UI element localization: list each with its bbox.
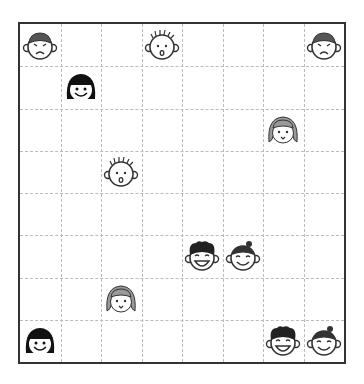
black-hair-girl-icon[interactable]	[61, 66, 102, 108]
angry-boy-icon[interactable]	[20, 24, 61, 66]
grid-line-horizontal	[20, 278, 344, 279]
grid-line-vertical	[263, 24, 264, 362]
curly-boy-icon[interactable]	[263, 320, 304, 362]
gray-hair-girl-icon[interactable]	[101, 278, 142, 320]
spiky-surprised-icon[interactable]	[101, 151, 142, 193]
angry-boy-icon[interactable]	[304, 24, 345, 66]
bun-girl-icon[interactable]	[304, 320, 345, 362]
gray-hair-girl-icon[interactable]	[263, 109, 304, 151]
black-hair-girl-icon[interactable]	[20, 320, 61, 362]
grid-line-horizontal	[20, 193, 344, 194]
bun-girl-icon[interactable]	[223, 235, 264, 277]
game-board	[18, 22, 346, 364]
grid-line-vertical	[304, 24, 305, 362]
spiky-surprised-icon[interactable]	[142, 24, 183, 66]
grid-line-vertical	[223, 24, 224, 362]
curly-boy-icon[interactable]	[182, 235, 223, 277]
